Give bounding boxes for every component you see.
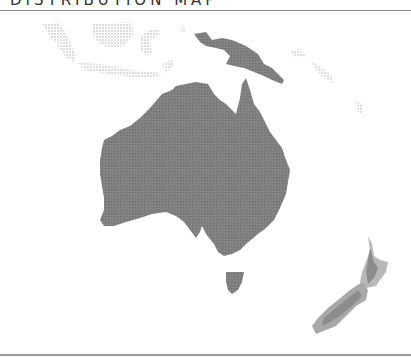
new-zealand-region (312, 236, 388, 334)
new-guinea-region (194, 32, 284, 84)
distribution-map (0, 12, 411, 352)
australia-region (100, 78, 290, 256)
map-title: DISTRIBUTION MAP (10, 0, 218, 9)
top-divider (0, 10, 411, 11)
tasmania-region (226, 272, 244, 294)
bottom-divider (0, 354, 411, 356)
